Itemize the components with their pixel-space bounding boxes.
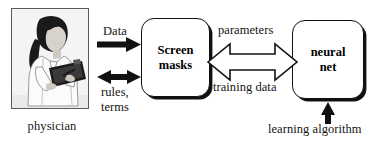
arrow-parameters-training-icon bbox=[208, 44, 297, 80]
node-screen-masks[interactable]: Screen masks bbox=[141, 18, 210, 97]
edge-label-learning-algorithm: learning algorithm bbox=[268, 122, 362, 137]
edge-label-data: Data bbox=[103, 24, 127, 39]
physician-caption: physician bbox=[4, 119, 100, 134]
node-screen-masks-line1: Screen bbox=[158, 43, 194, 58]
arrow-rules-terms-icon bbox=[97, 70, 141, 84]
node-screen-masks-line2: masks bbox=[159, 58, 192, 73]
node-neural-net-line2: net bbox=[320, 60, 337, 75]
node-neural-net[interactable]: neural net bbox=[292, 20, 364, 99]
edge-label-terms: terms bbox=[101, 100, 129, 115]
physician-illustration bbox=[12, 9, 89, 109]
arrow-learning-algorithm-icon bbox=[321, 102, 335, 124]
arrow-data-icon bbox=[97, 37, 141, 52]
edge-label-rules: rules, bbox=[101, 85, 129, 100]
physician-photo bbox=[11, 8, 89, 109]
edge-label-training-data: training data bbox=[213, 80, 276, 95]
diagram-canvas: physician Screen masks neural net Data r… bbox=[0, 0, 379, 149]
edge-label-parameters: parameters bbox=[218, 23, 273, 38]
node-neural-net-line1: neural bbox=[311, 45, 346, 60]
